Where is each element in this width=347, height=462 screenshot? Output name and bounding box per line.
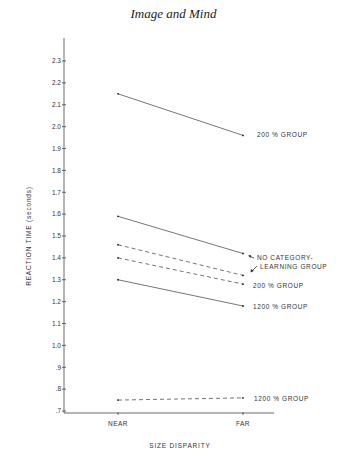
data-point	[242, 253, 244, 255]
y-tick-label: .7	[56, 407, 62, 414]
axes	[64, 38, 274, 413]
series-label-1200-solid: 1200 % GROUP	[253, 303, 308, 310]
y-tick-label: 1.5	[52, 232, 61, 239]
y-tick-label: 1.3	[52, 276, 61, 283]
series-lines	[117, 93, 244, 401]
y-axis-title: REACTION TIME (seconds)	[25, 186, 33, 286]
arrow-icon	[248, 255, 254, 258]
data-point	[117, 93, 119, 95]
x-ticks: NEARFAR	[108, 412, 250, 427]
series-line	[118, 398, 243, 400]
series-line	[118, 94, 243, 136]
y-tick-label: 1.6	[52, 210, 61, 217]
data-point	[242, 274, 244, 276]
y-tick-label: 1.0	[52, 342, 61, 349]
y-tick-label: 1.4	[52, 254, 61, 261]
annotation-ncl-line1: NO CATEGORY-	[257, 254, 313, 261]
y-tick-label: 1.1	[52, 320, 61, 327]
data-point	[117, 399, 119, 401]
y-tick-label: 1.7	[52, 189, 61, 196]
annotation-ncl-line2: LEARNING GROUP	[260, 263, 327, 270]
series-label-200-dashed: 200 % GROUP	[253, 282, 304, 289]
y-tick-label: 2.1	[52, 101, 61, 108]
line-chart: 2.32.22.12.01.91.81.71.61.51.41.31.21.11…	[0, 0, 347, 462]
data-point	[117, 257, 119, 259]
y-tick-label: .8	[56, 385, 62, 392]
series-line	[118, 216, 243, 253]
data-point	[117, 279, 119, 281]
data-point	[117, 215, 119, 217]
y-tick-label: 1.9	[52, 145, 61, 152]
y-tick-label: 1.2	[52, 298, 61, 305]
y-tick-label: 1.8	[52, 167, 61, 174]
data-point	[242, 305, 244, 307]
y-tick-label: 2.3	[52, 57, 61, 64]
x-category-label: NEAR	[108, 420, 128, 427]
data-point	[117, 244, 119, 246]
data-point	[242, 134, 244, 136]
y-tick-label: 2.2	[52, 79, 61, 86]
x-axis-title: SIZE DISPARITY	[149, 442, 210, 449]
series-labels: 200 % GROUP NO CATEGORY- LEARNING GROUP …	[248, 131, 327, 402]
arrow-icon	[251, 266, 258, 273]
series-label-1200-dashed: 1200 % GROUP	[254, 395, 309, 402]
series-line	[118, 258, 243, 284]
data-point	[242, 397, 244, 399]
data-point	[242, 283, 244, 285]
y-tick-label: 2.0	[52, 123, 61, 130]
x-category-label: FAR	[236, 420, 250, 427]
series-line	[118, 280, 243, 306]
y-tick-label: .9	[56, 364, 62, 371]
series-label-200-solid: 200 % GROUP	[257, 131, 308, 138]
